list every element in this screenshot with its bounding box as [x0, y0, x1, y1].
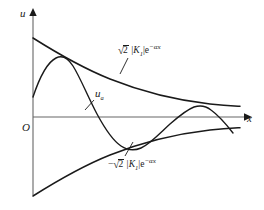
oscillation-subscript: a — [101, 94, 104, 101]
x-axis-label: x — [247, 113, 252, 124]
lower-envelope-exponent: −αx — [144, 157, 156, 165]
upper-envelope-leader — [120, 58, 128, 74]
upper-envelope-radicand: 2 — [123, 45, 129, 56]
y-axis-label: u — [20, 8, 26, 19]
oscillation-label: ua — [95, 88, 104, 101]
damped-oscillation-figure: u x O √2 |K1|e−αx −√2 |K1|e−αx ua — [0, 0, 264, 210]
upper-envelope-exponent: −αx — [149, 43, 161, 51]
lower-envelope-magnitude: |K — [126, 159, 135, 169]
origin-label: O — [22, 122, 30, 133]
upper-envelope-magnitude: |K — [131, 45, 140, 55]
lower-envelope-radicand: 2 — [118, 159, 124, 170]
y-axis — [29, 8, 36, 195]
plot-canvas — [0, 0, 264, 210]
upper-envelope-label: √2 |K1|e−αx — [118, 44, 161, 58]
lower-envelope-label: −√2 |K1|e−αx — [108, 158, 156, 172]
